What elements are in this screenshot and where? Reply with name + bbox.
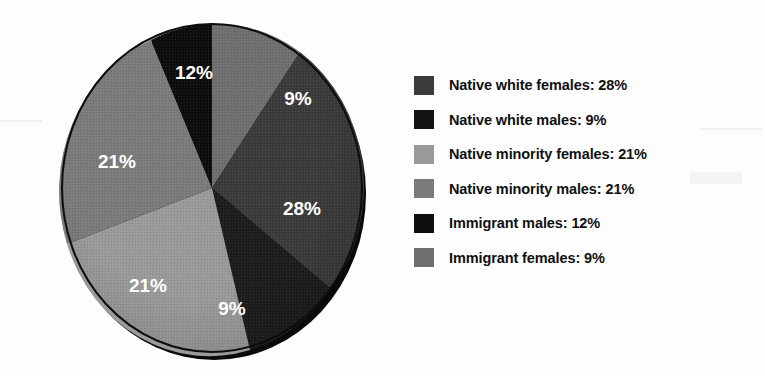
slice-label-native-minority-females: 21%	[129, 275, 167, 296]
legend-swatch-icon	[414, 179, 434, 198]
legend-item: Immigrant males: 12%	[414, 206, 754, 241]
legend-item: Immigrant females: 9%	[414, 241, 754, 276]
legend-swatch-icon	[414, 248, 434, 267]
slice-label-native-minority-males: 21%	[98, 151, 136, 172]
slice-label-immigrant-females: 9%	[218, 298, 246, 319]
legend-swatch-icon	[414, 145, 434, 164]
legend-label: Immigrant females: 9%	[449, 250, 605, 266]
pie-chart-figure: 9% 28% 9% 21% 21% 12% Native white femal…	[0, 0, 765, 376]
slice-label-immigrant-males: 12%	[175, 62, 213, 83]
legend-item: Native minority females: 21%	[414, 137, 754, 172]
legend-item: Native minority males: 21%	[414, 172, 754, 207]
legend-swatch-icon	[414, 110, 434, 129]
legend-label: Immigrant males: 12%	[449, 215, 600, 231]
legend-label: Native minority males: 21%	[449, 181, 634, 197]
pie-graphic: 9% 28% 9% 21% 21% 12%	[55, 12, 375, 364]
chart-legend: Native white females: 28% Native white m…	[414, 68, 754, 275]
legend-item: Native white males: 9%	[414, 103, 754, 138]
legend-label: Native white females: 28%	[449, 77, 627, 93]
legend-swatch-icon	[414, 214, 434, 233]
scan-artifact	[0, 120, 42, 122]
legend-swatch-icon	[414, 76, 434, 95]
slice-label-native-white-females: 28%	[283, 198, 321, 219]
pie-svg: 9% 28% 9% 21% 21% 12%	[55, 12, 375, 364]
legend-label: Native white males: 9%	[449, 112, 606, 128]
legend-item: Native white females: 28%	[414, 68, 754, 103]
slice-label-native-white-males: 9%	[284, 88, 312, 109]
legend-label: Native minority females: 21%	[449, 146, 647, 162]
